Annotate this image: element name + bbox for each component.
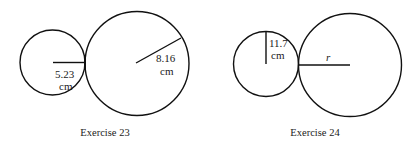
diagram-canvas: 5.23 cm 8.16 cm Exercise 23 11.7 cm r Ex…	[0, 0, 420, 147]
caption-exercise-24: Exercise 24	[290, 127, 340, 138]
large-radius-variable: r	[326, 51, 331, 63]
small-radius-value: 5.23	[55, 68, 75, 80]
small-radius-unit: cm	[271, 49, 285, 61]
large-radius-value: 8.16	[156, 52, 176, 64]
caption-exercise-23: Exercise 23	[80, 127, 129, 138]
exercise-24-figure: 11.7 cm r Exercise 24	[234, 14, 402, 139]
exercise-23-figure: 5.23 cm 8.16 cm Exercise 23	[20, 12, 189, 139]
small-radius-value: 11.7	[269, 37, 288, 49]
small-radius-unit: cm	[59, 80, 73, 92]
large-radius-unit: cm	[160, 65, 174, 77]
